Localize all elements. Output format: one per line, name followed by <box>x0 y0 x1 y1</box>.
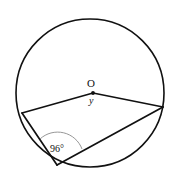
inscribed-angle-label: 96° <box>50 144 64 154</box>
center-point-label: O <box>87 78 95 89</box>
radius-center-to-left-vertex <box>22 93 93 113</box>
chord-left-vertex-to-bottom-vertex <box>22 113 57 165</box>
radius-center-to-right-vertex <box>93 93 163 107</box>
chord-bottom-vertex-to-right-vertex <box>57 107 163 165</box>
geometry-figure: O y 96° <box>0 0 176 186</box>
geometry-canvas <box>0 0 176 186</box>
central-angle-label: y <box>89 96 93 106</box>
